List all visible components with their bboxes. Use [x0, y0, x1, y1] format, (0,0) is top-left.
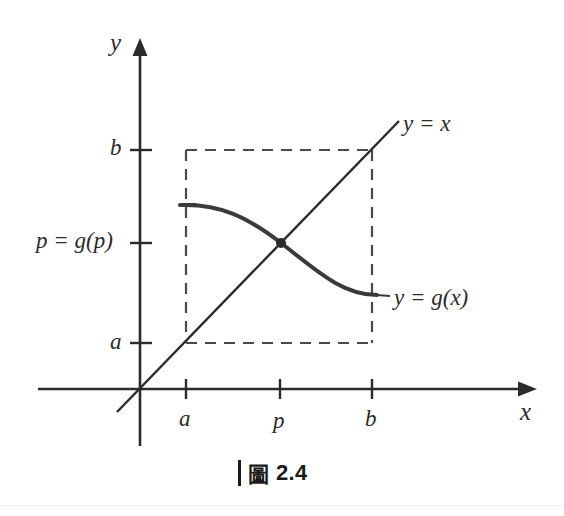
- y-axis-label: y: [110, 30, 121, 55]
- function-curve-label: y = g(x): [394, 286, 468, 309]
- identity-line: [117, 121, 399, 412]
- y-tick-label-b: b: [110, 136, 122, 159]
- x-axis-label: x: [520, 399, 531, 424]
- x-axis-arrowhead: [518, 382, 537, 397]
- function-label-leader: [377, 295, 390, 296]
- fixed-point-marker: [276, 238, 286, 248]
- function-curve: [186, 205, 377, 295]
- x-tick-label-a: a: [179, 407, 191, 430]
- figure-caption: 圖 2.4: [238, 458, 307, 488]
- caption-number: 2.4: [276, 460, 307, 486]
- x-tick-label-b: b: [365, 407, 377, 430]
- diagram-canvas: [0, 0, 564, 516]
- x-tick-label-p: p: [273, 409, 285, 432]
- caption-cjk-label: 圖: [248, 458, 269, 488]
- y-tick-label-a: a: [110, 330, 122, 353]
- x-axis: [38, 382, 537, 397]
- figure-container: y x b p = g(p) a a p b y = x y = g(x) 圖 …: [0, 0, 564, 516]
- identity-line-label: y = x: [403, 112, 450, 135]
- caption-rule-icon: [238, 460, 241, 486]
- page-edge-line: [0, 505, 564, 506]
- y-axis-arrowhead: [133, 38, 148, 56]
- y-tick-label-fixed-point: p = g(p): [36, 229, 113, 252]
